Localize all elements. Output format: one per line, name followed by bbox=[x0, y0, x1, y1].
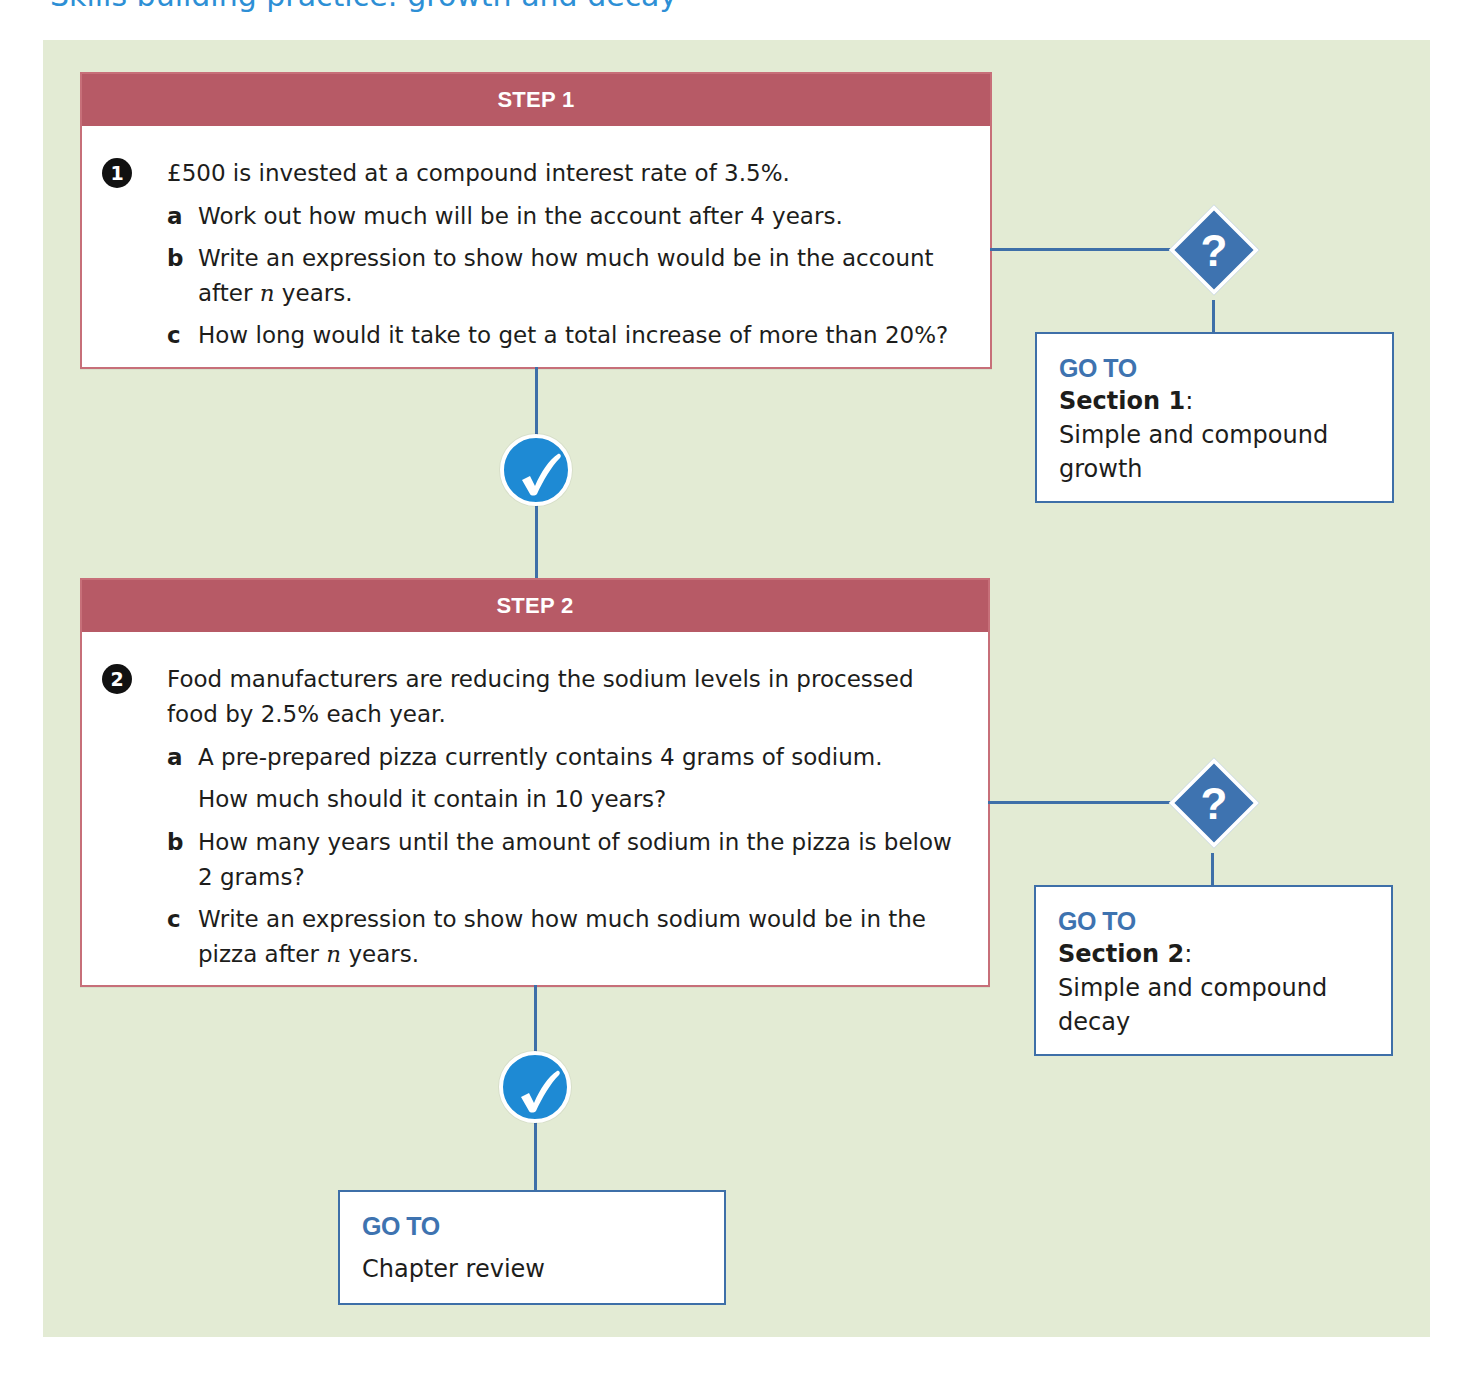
connector-line bbox=[988, 801, 1180, 804]
step-2-header: STEP 2 bbox=[82, 580, 988, 632]
goto-section-1[interactable]: GO TO Section 1: Simple and compound gro… bbox=[1035, 332, 1394, 503]
step-1-box: STEP 1 1 £500 is invested at a compound … bbox=[80, 72, 992, 369]
part-text: A pre-prepared pizza currently contains … bbox=[198, 744, 883, 770]
part-text: How many years until the amount of sodiu… bbox=[198, 825, 968, 895]
part-letter: a bbox=[167, 740, 183, 775]
chapter-review-label: Chapter review bbox=[362, 1252, 702, 1286]
variable-n: n bbox=[260, 280, 275, 306]
question-1-stem: £500 is invested at a compound interest … bbox=[167, 156, 970, 191]
part-text: Write an expression to show how much sod… bbox=[198, 906, 926, 932]
part-letter: c bbox=[167, 902, 181, 937]
part-text-line2: How much should it contain in 10 years? bbox=[198, 782, 666, 817]
question-2-stem: Food manufacturers are reducing the sodi… bbox=[167, 662, 948, 732]
connector-line bbox=[1212, 300, 1215, 334]
section-description: Simple and compound decay bbox=[1058, 971, 1348, 1039]
part-letter: c bbox=[167, 318, 181, 353]
part-text: How long would it take to get a total in… bbox=[198, 318, 970, 353]
part-text: Work out how much will be in the account… bbox=[198, 199, 970, 234]
connector-line bbox=[1211, 853, 1214, 887]
goto-chapter-review[interactable]: GO TO Chapter review bbox=[338, 1190, 726, 1305]
goto-label: GO TO bbox=[362, 1210, 702, 1242]
part-text: Write an expression to show how much wou… bbox=[198, 245, 934, 271]
section-label: Section 2 bbox=[1058, 940, 1184, 968]
question-mark-icon: ? bbox=[1169, 759, 1259, 849]
question-number-1: 1 bbox=[102, 158, 132, 188]
checkmark-icon bbox=[516, 450, 564, 498]
part-letter: a bbox=[167, 199, 183, 234]
question-mark-icon: ? bbox=[1169, 206, 1259, 296]
check-circle-2[interactable] bbox=[499, 1051, 571, 1123]
question-number-2: 2 bbox=[102, 664, 132, 694]
page-heading-clipped: Skills building practice: growth and dec… bbox=[50, 0, 677, 13]
section-description: Simple and compound growth bbox=[1059, 418, 1349, 486]
variable-n: n bbox=[326, 941, 341, 967]
section-label: Section 1 bbox=[1059, 387, 1185, 415]
goto-label: GO TO bbox=[1058, 905, 1369, 937]
goto-label: GO TO bbox=[1059, 352, 1370, 384]
part-letter: b bbox=[167, 241, 183, 276]
checkmark-icon bbox=[515, 1067, 563, 1115]
connector-line bbox=[990, 248, 1180, 251]
part-letter: b bbox=[167, 825, 183, 860]
goto-section-2[interactable]: GO TO Section 2: Simple and compound dec… bbox=[1034, 885, 1393, 1056]
step-2-box: STEP 2 2 Food manufacturers are reducing… bbox=[80, 578, 990, 987]
check-circle-1[interactable] bbox=[500, 434, 572, 506]
step-1-header: STEP 1 bbox=[82, 74, 990, 126]
